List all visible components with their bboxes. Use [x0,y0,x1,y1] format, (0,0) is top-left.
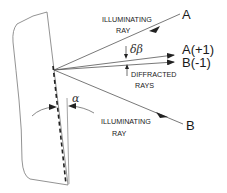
label-illuminating-bottom-2: RAY [112,129,126,138]
label-illuminating-top-2: RAY [116,26,130,35]
alpha-reference-line [67,98,69,184]
diffracted-ray-b [54,62,174,70]
alpha-arrowhead-left [49,104,57,110]
label-diffracted-1: DIFFRACTED [131,70,177,79]
label-illuminating-top-1: ILLUMINATING [102,15,152,24]
delta-beta-arrowhead-top [124,54,128,59]
label-b-minus-1: B(-1) [182,55,211,70]
diffracted-ray-a [54,55,174,70]
diffraction-diagram: A B A(+1) B(-1) ILLUMINATING RAY ILLUMIN… [0,0,227,193]
label-alpha: α [72,92,80,105]
label-b: B [186,118,195,133]
substrate-outline [13,12,68,185]
label-diffracted-2: RAYS [135,81,154,90]
label-delta-beta: δβ [130,43,143,56]
grating-dashed-line [53,66,66,184]
label-a: A [182,7,191,22]
label-illuminating-bottom-1: ILLUMINATING [101,117,151,126]
ray-b-arrowhead [156,112,168,118]
